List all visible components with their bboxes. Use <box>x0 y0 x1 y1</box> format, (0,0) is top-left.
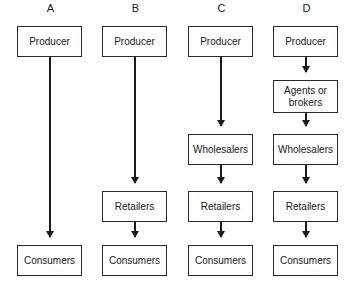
channel-label-c: C <box>188 2 255 14</box>
arrow-down-icon <box>305 113 307 126</box>
arrow-down-icon <box>134 222 136 237</box>
arrow-down-icon <box>220 165 222 183</box>
channel-d-wholesalers-box: Wholesalers <box>273 134 338 165</box>
channel-b-consumers-box: Consumers <box>102 245 167 276</box>
arrow-down-icon <box>134 57 136 183</box>
channel-c-consumers-box: Consumers <box>188 245 253 276</box>
channel-a-producer-box: Producer <box>17 26 82 57</box>
arrow-down-icon <box>305 222 307 237</box>
channel-d-agents-box: Agents or brokers <box>273 80 338 113</box>
arrow-down-icon <box>305 165 307 183</box>
channel-b-producer-box: Producer <box>102 26 167 57</box>
channel-d-consumers-box: Consumers <box>273 245 338 276</box>
arrow-down-icon <box>305 57 307 72</box>
channel-b-retailers-box: Retailers <box>102 191 167 222</box>
channel-c-producer-box: Producer <box>188 26 253 57</box>
channel-d-retailers-box: Retailers <box>273 191 338 222</box>
arrow-down-icon <box>49 57 51 237</box>
channel-label-d: D <box>273 2 340 14</box>
channel-c-retailers-box: Retailers <box>188 191 253 222</box>
channel-d-producer-box: Producer <box>273 26 338 57</box>
arrow-down-icon <box>220 222 222 237</box>
channel-label-a: A <box>17 2 84 14</box>
arrow-down-icon <box>220 57 222 126</box>
channel-c-wholesalers-box: Wholesalers <box>188 134 253 165</box>
channel-label-b: B <box>102 2 169 14</box>
channel-a-consumers-box: Consumers <box>17 245 82 276</box>
